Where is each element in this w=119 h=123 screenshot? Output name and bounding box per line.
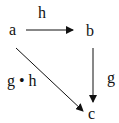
node-b: b bbox=[86, 23, 94, 39]
arrows-layer bbox=[0, 0, 119, 123]
node-c: c bbox=[88, 106, 95, 122]
label-h: h bbox=[38, 5, 46, 21]
label-composite: g • h bbox=[7, 73, 37, 89]
label-g: g bbox=[107, 70, 115, 86]
node-a: a bbox=[9, 22, 16, 38]
